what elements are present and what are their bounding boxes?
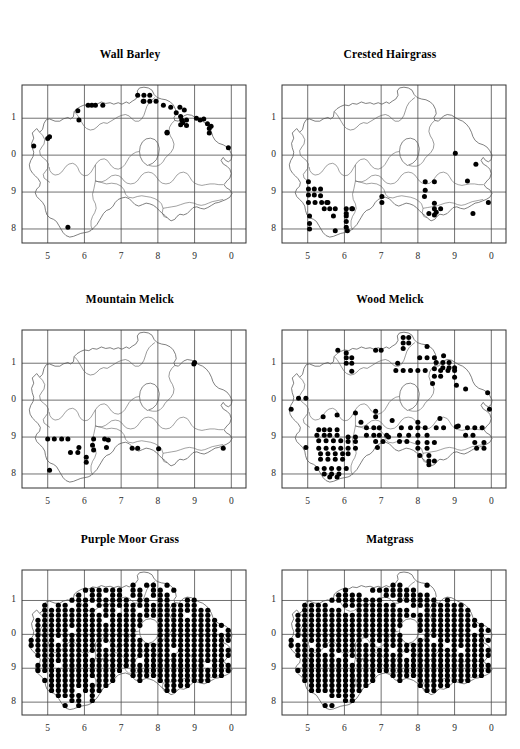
record-dot xyxy=(316,446,321,451)
record-dot xyxy=(192,648,197,653)
record-dot xyxy=(65,436,70,441)
x-tick-label: 7 xyxy=(375,723,387,733)
record-dot xyxy=(69,648,74,653)
record-dot xyxy=(424,608,429,613)
x-tick-label: 6 xyxy=(78,496,90,506)
record-dot xyxy=(76,618,81,623)
record-dot xyxy=(198,608,203,613)
record-dot xyxy=(486,648,491,653)
record-dot xyxy=(185,668,190,673)
record-dot xyxy=(404,663,409,668)
record-dot xyxy=(49,648,54,653)
record-dot xyxy=(397,653,402,658)
record-dot xyxy=(49,658,54,663)
record-dot xyxy=(83,673,88,678)
record-dot xyxy=(117,653,122,658)
record-dot xyxy=(431,623,436,628)
record-dot xyxy=(438,668,443,673)
record-dot xyxy=(432,201,437,206)
record-dot xyxy=(130,658,135,663)
record-dot xyxy=(425,446,430,451)
record-dot xyxy=(418,683,423,688)
record-dot xyxy=(135,446,140,451)
record-dot xyxy=(346,451,351,456)
record-dot xyxy=(97,643,102,648)
record-dot xyxy=(144,658,149,663)
record-dot xyxy=(316,643,321,648)
record-dot xyxy=(424,688,429,693)
record-dot xyxy=(130,673,135,678)
record-dot xyxy=(144,673,149,678)
x-tick-label: 0 xyxy=(485,723,497,733)
record-dot xyxy=(83,628,88,633)
record-dot xyxy=(431,643,436,648)
record-dot xyxy=(97,628,102,633)
record-dot xyxy=(323,668,328,673)
record-dot xyxy=(171,623,176,628)
record-dot xyxy=(192,663,197,668)
record-dot xyxy=(69,658,74,663)
record-dot xyxy=(350,673,355,678)
map-panel-crested-hairgrass: Crested Hairgrass5678901098 xyxy=(260,40,520,280)
record-dot xyxy=(445,628,450,633)
record-dot xyxy=(375,445,380,450)
record-dot xyxy=(110,623,115,628)
record-dot xyxy=(164,648,169,653)
record-dot xyxy=(84,460,89,465)
record-dot xyxy=(144,583,149,588)
record-dot xyxy=(335,348,340,353)
record-dot xyxy=(164,633,169,638)
record-dot xyxy=(458,673,463,678)
record-dot xyxy=(309,668,314,673)
record-dot xyxy=(465,425,470,430)
record-dot xyxy=(486,663,491,668)
record-dot xyxy=(110,643,115,648)
record-dot xyxy=(302,633,307,638)
y-tick-label: 8 xyxy=(4,696,16,706)
record-dot xyxy=(76,693,81,698)
record-dot xyxy=(164,613,169,618)
record-dot xyxy=(350,688,355,693)
record-dot xyxy=(56,613,61,618)
record-dot xyxy=(465,648,470,653)
record-dot xyxy=(323,643,328,648)
record-dot xyxy=(415,368,420,373)
record-dot xyxy=(198,658,203,663)
record-dot xyxy=(117,593,122,598)
record-dot xyxy=(137,663,142,668)
record-dot xyxy=(69,613,74,618)
record-dot xyxy=(447,360,452,365)
record-dot xyxy=(178,648,183,653)
record-dot xyxy=(56,688,61,693)
record-dot xyxy=(384,613,389,618)
record-dot xyxy=(418,638,423,643)
record-dot xyxy=(76,683,81,688)
record-dot xyxy=(424,593,429,598)
record-dot xyxy=(219,643,224,648)
record-dot xyxy=(178,608,183,613)
panel-title: Wall Barley xyxy=(0,48,260,60)
record-dot xyxy=(426,462,431,467)
record-dot xyxy=(343,653,348,658)
record-dots xyxy=(45,360,226,473)
record-dot xyxy=(182,108,187,113)
record-dot xyxy=(212,623,217,628)
record-dot xyxy=(141,93,146,98)
record-dot xyxy=(329,653,334,658)
record-dot xyxy=(69,698,74,703)
record-dot xyxy=(171,673,176,678)
record-dot xyxy=(110,638,115,643)
record-dot xyxy=(316,688,321,693)
record-dot xyxy=(350,668,355,673)
record-dot xyxy=(35,623,40,628)
record-dot xyxy=(83,638,88,643)
record-dot xyxy=(185,658,190,663)
record-dot xyxy=(418,658,423,663)
record-dot xyxy=(302,608,307,613)
record-dot xyxy=(205,643,210,648)
record-dot xyxy=(158,608,163,613)
record-dot xyxy=(295,613,300,618)
record-dot xyxy=(434,360,439,365)
record-dot xyxy=(141,99,146,104)
record-dot xyxy=(336,593,341,598)
